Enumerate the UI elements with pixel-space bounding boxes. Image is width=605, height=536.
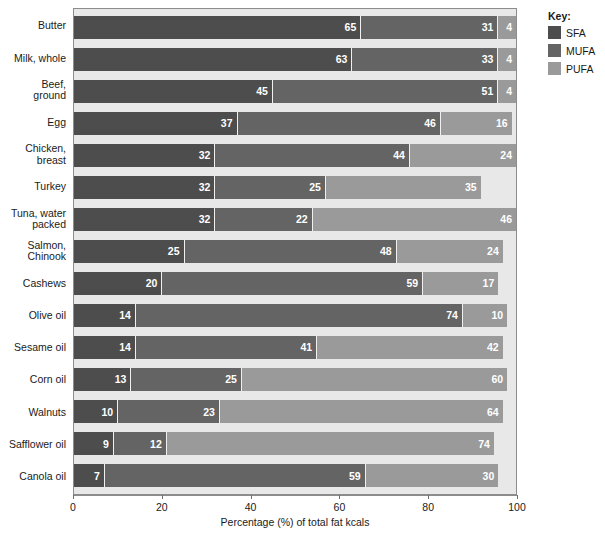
legend-items: SFAMUFAPUFA (548, 26, 605, 75)
category-label: Canola oil (0, 465, 66, 488)
bar-segment-mufa: 33 (352, 48, 498, 71)
bar-segment-sfa: 37 (74, 112, 238, 135)
bar-value-label: 25 (168, 246, 184, 257)
bar-segment-sfa: 10 (74, 400, 118, 423)
bar-segment-mufa: 51 (273, 80, 498, 103)
bar-segment-sfa: 7 (74, 464, 105, 487)
bar-value-label: 4 (506, 54, 516, 65)
x-axis-tick-label: 100 (508, 501, 526, 513)
bar-value-label: 9 (103, 439, 113, 450)
x-axis-tick-label: 40 (245, 501, 257, 513)
legend-label: PUFA (566, 63, 593, 75)
bar-value-label: 25 (225, 374, 241, 385)
bar-segment-sfa: 32 (74, 144, 215, 167)
category-label: Olive oil (0, 304, 66, 327)
bar-segment-sfa: 65 (74, 16, 361, 39)
legend-item-sfa[interactable]: SFA (548, 26, 605, 39)
bar-segment-sfa: 14 (74, 304, 136, 327)
bar-value-label: 51 (482, 86, 498, 97)
bar-value-label: 10 (102, 407, 118, 418)
bar-segment-mufa: 59 (162, 272, 423, 295)
bar-segment-mufa: 25 (215, 176, 326, 199)
bar-segment-pufa: 10 (463, 304, 507, 327)
bar-segment-sfa: 9 (74, 432, 114, 455)
bar-value-label: 33 (482, 54, 498, 65)
x-axis-tick (339, 495, 340, 499)
legend: Key: SFAMUFAPUFA (548, 10, 605, 80)
bar-segment-mufa: 74 (136, 304, 463, 327)
bar-value-label: 60 (491, 374, 507, 385)
bar-value-label: 46 (424, 118, 440, 129)
bar-value-label: 41 (300, 342, 316, 353)
legend-title: Key: (548, 10, 605, 22)
bar-segment-pufa: 24 (410, 144, 516, 167)
x-axis-title: Percentage (%) of total fat kcals (73, 516, 517, 528)
bar-value-label: 74 (478, 439, 494, 450)
legend-swatch-icon (548, 26, 561, 39)
category-label: Beef, ground (0, 79, 66, 102)
bar-row: 102364 (74, 400, 516, 423)
bar-value-label: 44 (393, 150, 409, 161)
bar-segment-sfa: 45 (74, 80, 273, 103)
bar-segment-mufa: 31 (361, 16, 498, 39)
bar-segment-mufa: 23 (118, 400, 220, 423)
legend-item-mufa[interactable]: MUFA (548, 44, 605, 57)
bar-value-label: 20 (146, 278, 162, 289)
bar-value-label: 16 (496, 118, 512, 129)
bar-segment-sfa: 20 (74, 272, 162, 295)
x-axis-tick (251, 495, 252, 499)
bar-segment-mufa: 25 (131, 368, 242, 391)
bar-segment-pufa: 4 (498, 48, 516, 71)
x-axis-tick (517, 495, 518, 499)
bar-segment-mufa: 22 (215, 208, 312, 231)
x-axis-tick-label: 80 (422, 501, 434, 513)
bar-value-label: 32 (199, 214, 215, 225)
bar-value-label: 17 (483, 278, 499, 289)
bar-value-label: 59 (406, 278, 422, 289)
bar-segment-pufa: 4 (498, 80, 516, 103)
bar-segment-pufa: 64 (220, 400, 503, 423)
legend-item-pufa[interactable]: PUFA (548, 62, 605, 75)
bar-segment-mufa: 48 (185, 240, 397, 263)
bar-row: 324424 (74, 144, 516, 167)
bar-segment-sfa: 25 (74, 240, 185, 263)
bar-row: 205917 (74, 272, 516, 295)
bar-value-label: 48 (380, 246, 396, 257)
legend-label: SFA (566, 27, 586, 39)
bar-segment-pufa: 17 (423, 272, 498, 295)
category-axis-labels: ButterMilk, wholeBeef, groundEggChicken,… (0, 8, 66, 495)
bar-value-label: 4 (506, 86, 516, 97)
category-label: Butter (0, 15, 66, 38)
bar-value-label: 22 (296, 214, 312, 225)
plot-area: 6531463334455143746163244243225353222462… (73, 8, 517, 495)
x-axis-tick-label: 60 (334, 501, 346, 513)
category-label: Turkey (0, 176, 66, 199)
bar-value-label: 37 (221, 118, 237, 129)
bar-segment-sfa: 13 (74, 368, 131, 391)
bar-value-label: 65 (345, 22, 361, 33)
bar-segment-pufa: 16 (441, 112, 512, 135)
bar-value-label: 31 (482, 22, 498, 33)
category-label: Egg (0, 111, 66, 134)
category-label: Chicken, breast (0, 143, 66, 166)
stacked-bar-chart: ButterMilk, wholeBeef, groundEggChicken,… (0, 0, 605, 536)
x-axis-tick-label: 0 (70, 501, 76, 513)
category-label: Safflower oil (0, 433, 66, 456)
bar-row: 322246 (74, 208, 516, 231)
bar-segment-pufa: 74 (167, 432, 494, 455)
bar-segment-pufa: 42 (317, 336, 503, 359)
bar-segment-mufa: 44 (215, 144, 409, 167)
x-axis-tick-label: 20 (156, 501, 168, 513)
category-label: Sesame oil (0, 336, 66, 359)
x-axis-tick (73, 495, 74, 499)
bar-value-label: 13 (115, 374, 131, 385)
bar-value-label: 24 (487, 246, 503, 257)
bar-row: 65314 (74, 16, 516, 39)
bar-segment-pufa: 35 (326, 176, 481, 199)
x-axis-tick (428, 495, 429, 499)
bar-row: 45514 (74, 80, 516, 103)
bar-value-label: 32 (199, 150, 215, 161)
bar-segment-mufa: 12 (114, 432, 167, 455)
bar-row: 91274 (74, 432, 516, 455)
bar-segment-sfa: 32 (74, 176, 215, 199)
